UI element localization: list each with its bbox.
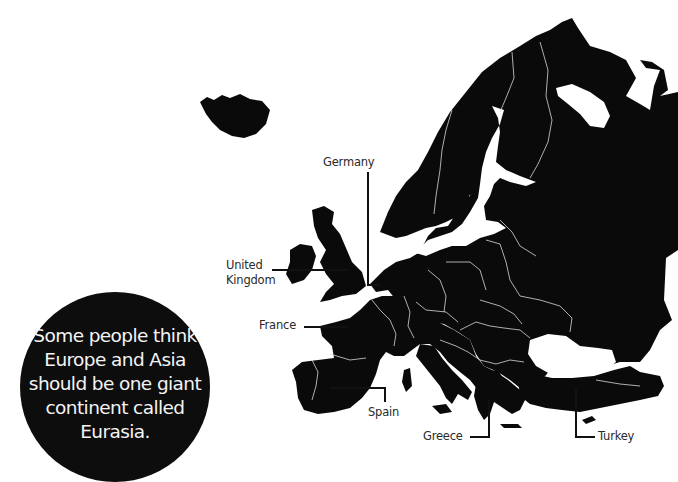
spain-leader-line-v: [384, 387, 386, 402]
sicily-shape: [432, 404, 452, 414]
fact-callout-circle: Some people think Europe and Asia should…: [20, 292, 210, 482]
germany-leader-line-h: [367, 284, 381, 286]
label-united-kingdom-line2: Kingdom: [226, 273, 275, 288]
greece-leader-line-h: [470, 436, 490, 438]
great-britain-shape: [312, 206, 366, 302]
united-kingdom-leader-line: [272, 269, 348, 271]
cyprus-shape: [582, 416, 596, 424]
turkey-leader-line-h: [575, 436, 595, 438]
label-greece: Greece: [423, 429, 463, 444]
label-france: France: [259, 318, 296, 333]
germany-leader-line: [367, 172, 369, 286]
label-united-kingdom-line1: United: [226, 258, 275, 273]
fact-callout-text: Some people think Europe and Asia should…: [27, 324, 203, 444]
crete-shape: [500, 424, 522, 428]
label-spain: Spain: [368, 405, 399, 420]
turkey-leader-line-v: [575, 388, 577, 438]
ireland-shape: [286, 244, 316, 284]
spain-leader-line-h: [330, 387, 385, 389]
greece-leader-line-v: [488, 400, 490, 438]
label-turkey: Turkey: [598, 429, 634, 444]
iceland-shape: [200, 94, 270, 138]
label-germany: Germany: [323, 155, 374, 170]
label-united-kingdom: United Kingdom: [226, 258, 275, 288]
france-leader-line: [304, 326, 348, 328]
sardinia-shape: [402, 368, 412, 392]
